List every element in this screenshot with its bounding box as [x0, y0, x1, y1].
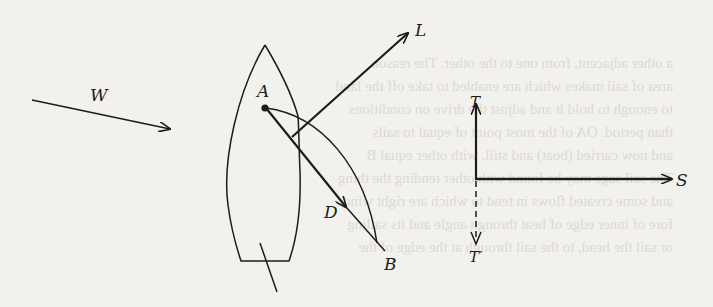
boat-hull — [227, 45, 300, 261]
reverse-thrust-label: T′ — [469, 248, 483, 266]
drag-vector — [266, 108, 346, 207]
point-a-dot — [261, 104, 268, 111]
point-b-label: B — [383, 254, 397, 274]
thrust-label: T — [470, 93, 481, 111]
force-axes — [471, 104, 672, 244]
drag-label: D — [323, 202, 338, 222]
lift-vector — [292, 33, 408, 137]
point-a-label: A — [255, 81, 269, 101]
wind-label: W — [90, 85, 109, 105]
side-force-label: S — [676, 170, 688, 190]
rudder-line — [260, 243, 277, 292]
chord-line — [346, 207, 385, 251]
diagram-svg: W A L D B T T′ S — [0, 0, 713, 307]
figure-canvas: a other adjacent, from one to the other.… — [0, 0, 713, 307]
lift-label: L — [414, 20, 426, 40]
